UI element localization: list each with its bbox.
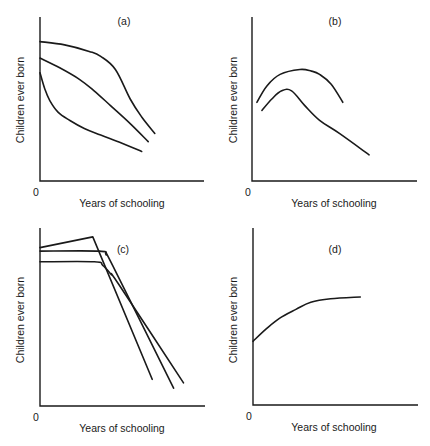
- y-axis-label: Children ever born: [227, 277, 239, 364]
- series-line-curve-2: [40, 58, 148, 142]
- series-line-curve-1: [40, 42, 155, 134]
- x-axis-label: Years of schooling: [291, 197, 377, 209]
- origin-label: 0: [33, 186, 39, 198]
- panel-label: (c): [117, 243, 129, 255]
- series-group: [257, 69, 369, 154]
- panel-label: (a): [118, 15, 131, 27]
- series-group: [253, 297, 360, 341]
- x-axis-label: Years of schooling: [79, 197, 165, 209]
- series-line-curve-3: [40, 73, 142, 152]
- origin-label: 0: [246, 410, 252, 422]
- panel-a: (a) 0 Years of schooling Children ever b…: [14, 15, 204, 209]
- x-axis-label: Years of schooling: [291, 421, 377, 433]
- y-axis-label: Children ever born: [14, 277, 26, 364]
- series-line-curve-1: [257, 69, 343, 102]
- origin-label: 0: [33, 411, 39, 423]
- panel-b: (b) 0 Years of schooling Children ever b…: [227, 15, 417, 209]
- axes: [40, 17, 204, 181]
- panel-label: (d): [329, 243, 342, 255]
- panel-d: (d) 0 Years of schooling Children ever b…: [227, 228, 418, 433]
- series-line-curve-1: [253, 297, 360, 341]
- figure: (a) 0 Years of schooling Children ever b…: [0, 0, 430, 446]
- panel-label: (b): [329, 15, 342, 27]
- y-axis-label: Children ever born: [14, 57, 26, 144]
- panel-c: (c) 0 Years of schooling Children ever b…: [14, 228, 205, 434]
- origin-label: 0: [245, 186, 251, 198]
- series-group: [40, 42, 155, 152]
- x-axis-label: Years of schooling: [79, 422, 165, 434]
- axes: [252, 17, 417, 181]
- y-axis-label: Children ever born: [227, 57, 239, 144]
- series-group: [40, 237, 184, 388]
- series-line-curve-1: [40, 237, 152, 379]
- series-line-curve-2: [262, 89, 369, 155]
